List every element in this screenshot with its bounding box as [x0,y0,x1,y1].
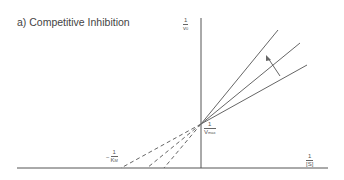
dashed-low-inhibitor [147,124,201,168]
x-intercept-label: − 1 KM [106,149,118,164]
plot-area [0,0,344,180]
y-intercept-label: 1 Vmax [204,121,216,136]
dashed-no-inhibitor [121,124,201,168]
line-low-inhibitor [201,43,300,124]
dashed-high-inhibitor [164,124,201,168]
arrowhead-icon [266,55,271,61]
line-high-inhibitor [201,30,278,124]
x-axis-label: 1 [S] [306,153,313,168]
line-no-inhibitor [201,65,307,124]
y-axis-label: 1 v0 [183,17,188,32]
